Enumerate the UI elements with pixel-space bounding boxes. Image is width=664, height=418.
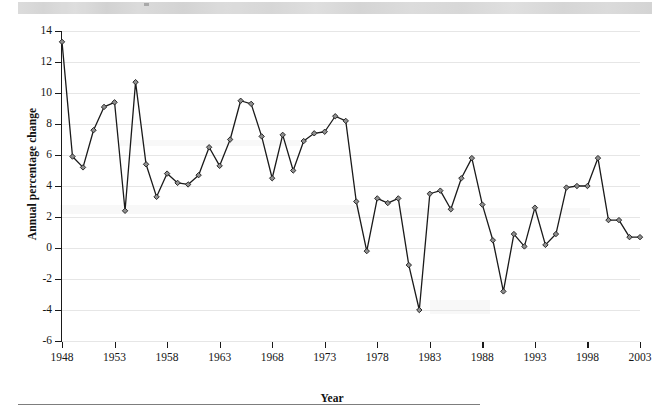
y-axis-tick-label: 4 bbox=[6, 180, 52, 192]
x-axis-tick bbox=[272, 342, 273, 348]
y-axis-tick-label: 14 bbox=[6, 25, 52, 37]
x-axis-tick bbox=[587, 342, 588, 348]
x-axis-tick-label: 1978 bbox=[354, 351, 400, 363]
y-axis-tick-label: 10 bbox=[6, 87, 52, 99]
data-point-marker bbox=[133, 79, 138, 84]
data-point-marker bbox=[343, 118, 348, 123]
data-point-marker bbox=[417, 307, 422, 312]
x-axis-tick bbox=[640, 342, 641, 348]
series-line-annual-percentage-change bbox=[62, 31, 640, 341]
y-axis-tick bbox=[55, 310, 62, 311]
x-axis-tick-label: 1993 bbox=[512, 351, 558, 363]
y-axis-tick bbox=[55, 341, 62, 342]
y-axis-tick bbox=[55, 93, 62, 94]
y-axis-tick-label: 8 bbox=[6, 118, 52, 130]
data-point-marker bbox=[438, 188, 443, 193]
x-axis-tick-label: 1948 bbox=[39, 351, 85, 363]
y-axis-tick bbox=[55, 31, 62, 32]
x-axis-tick bbox=[482, 342, 483, 348]
data-point-marker bbox=[206, 145, 211, 150]
data-point-marker bbox=[606, 217, 611, 222]
data-point-marker bbox=[238, 98, 243, 103]
data-point-marker bbox=[154, 194, 159, 199]
x-axis-tick bbox=[325, 342, 326, 348]
x-axis-tick bbox=[115, 342, 116, 348]
x-axis-tick-label: 1973 bbox=[302, 351, 348, 363]
x-axis-tick-label: 1998 bbox=[564, 351, 610, 363]
data-point-marker bbox=[280, 132, 285, 137]
y-axis-tick-label: 0 bbox=[6, 242, 52, 254]
y-axis-tick-label: 2 bbox=[6, 211, 52, 223]
series-markers bbox=[59, 39, 642, 313]
data-point-marker bbox=[122, 208, 127, 213]
y-axis-tick bbox=[55, 217, 62, 218]
data-point-marker bbox=[291, 168, 296, 173]
data-point-marker bbox=[469, 155, 474, 160]
data-point-marker bbox=[269, 176, 274, 181]
data-point-marker bbox=[406, 262, 411, 267]
x-axis-tick bbox=[535, 342, 536, 348]
gridline bbox=[62, 341, 640, 342]
x-axis-title: Year bbox=[0, 392, 664, 404]
data-point-marker bbox=[564, 185, 569, 190]
data-point-marker bbox=[385, 200, 390, 205]
data-point-marker bbox=[143, 162, 148, 167]
x-axis-tick bbox=[220, 342, 221, 348]
x-axis-tick bbox=[167, 342, 168, 348]
data-point-marker bbox=[375, 196, 380, 201]
y-axis-tick bbox=[55, 279, 62, 280]
plot-area bbox=[62, 31, 640, 341]
data-point-marker bbox=[248, 101, 253, 106]
data-point-marker bbox=[595, 155, 600, 160]
data-point-marker bbox=[427, 191, 432, 196]
x-axis-tick-label: 1988 bbox=[459, 351, 505, 363]
x-axis-tick-label: 2003 bbox=[617, 351, 663, 363]
x-axis-tick-label: 1968 bbox=[249, 351, 295, 363]
data-point-marker bbox=[574, 183, 579, 188]
data-point-marker bbox=[396, 196, 401, 201]
data-point-marker bbox=[227, 137, 232, 142]
data-point-marker bbox=[480, 202, 485, 207]
line-chart: Annual percentage change 14121086420-2-4… bbox=[0, 18, 664, 378]
scan-speck bbox=[144, 3, 149, 6]
x-axis-tick bbox=[377, 342, 378, 348]
data-point-marker bbox=[585, 183, 590, 188]
y-axis-tick-label: -2 bbox=[6, 273, 52, 285]
data-point-marker bbox=[217, 163, 222, 168]
data-point-marker bbox=[637, 234, 642, 239]
y-axis-tick-label: 12 bbox=[6, 56, 52, 68]
data-point-marker bbox=[101, 104, 106, 109]
data-point-marker bbox=[490, 238, 495, 243]
y-axis-tick bbox=[55, 62, 62, 63]
y-axis-tick bbox=[55, 186, 62, 187]
x-axis-tick bbox=[62, 342, 63, 348]
x-axis-tick-label: 1958 bbox=[144, 351, 190, 363]
y-axis-tick bbox=[55, 248, 62, 249]
data-point-marker bbox=[259, 134, 264, 139]
data-point-marker bbox=[364, 248, 369, 253]
data-point-marker bbox=[448, 207, 453, 212]
data-point-marker bbox=[459, 176, 464, 181]
x-axis-tick-label: 1953 bbox=[92, 351, 138, 363]
data-point-marker bbox=[532, 205, 537, 210]
y-axis-tick-label: 6 bbox=[6, 149, 52, 161]
data-point-marker bbox=[91, 128, 96, 133]
data-point-marker bbox=[354, 199, 359, 204]
y-axis-tick bbox=[55, 155, 62, 156]
x-axis-tick-label: 1983 bbox=[407, 351, 453, 363]
y-axis-tick bbox=[55, 124, 62, 125]
data-point-marker bbox=[501, 289, 506, 294]
page-divider-rule bbox=[18, 404, 480, 405]
y-axis-tick-label: -4 bbox=[6, 304, 52, 316]
x-axis-tick-label: 1963 bbox=[197, 351, 243, 363]
y-axis-tick-label: -6 bbox=[6, 335, 52, 347]
scanned-page-band bbox=[18, 2, 652, 14]
data-point-marker bbox=[112, 100, 117, 105]
x-axis-tick bbox=[430, 342, 431, 348]
series-polyline bbox=[62, 42, 640, 310]
